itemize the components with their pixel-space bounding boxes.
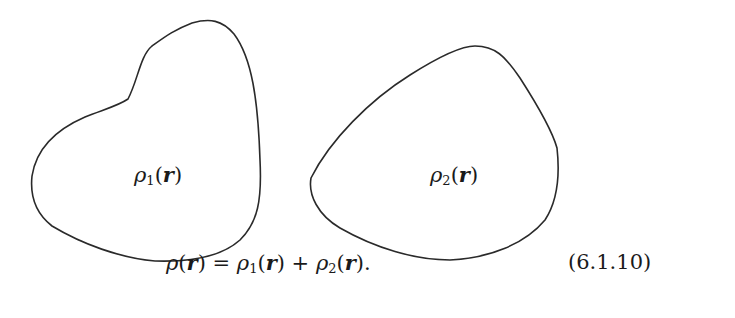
equation: ρ(r) = ρ1(r) + ρ2(r).	[166, 250, 371, 276]
vector-r: r	[163, 162, 174, 187]
region-2-label: ρ2(r)	[430, 162, 478, 188]
rho-symbol: ρ	[166, 251, 178, 275]
vector-r: r	[459, 162, 470, 187]
rho-symbol: ρ	[237, 251, 249, 275]
region-1-label: ρ1(r)	[134, 162, 182, 188]
equals-sign: =	[213, 251, 231, 275]
period: .	[364, 251, 371, 275]
vector-r: r	[187, 250, 198, 275]
region-2-boundary	[310, 46, 558, 260]
subscript: 1	[146, 173, 154, 188]
equation-number: (6.1.10)	[568, 250, 651, 274]
rho-symbol: ρ	[430, 163, 442, 187]
rho-symbol: ρ	[316, 251, 328, 275]
region-1-boundary	[32, 21, 261, 262]
vector-r: r	[266, 250, 277, 275]
subscript: 2	[442, 173, 450, 188]
subscript: 2	[328, 261, 336, 276]
vector-r: r	[345, 250, 356, 275]
plus-sign: +	[292, 251, 310, 275]
subscript: 1	[249, 261, 257, 276]
rho-symbol: ρ	[134, 163, 146, 187]
